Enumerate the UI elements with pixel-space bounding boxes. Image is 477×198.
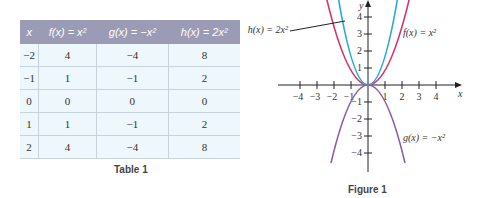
y-axis-arrow-icon [365,0,371,7]
x-axis-label: x [457,88,463,99]
label-g: g(x) = −x² [403,132,446,144]
label-h-leader [290,21,345,31]
svg-text:1: 1 [357,62,362,73]
parabola-graph: −4−3 −2−1 12 34 43 21 −1−2 −3−4 x y h(x)… [0,0,477,198]
svg-text:−2: −2 [327,91,338,102]
svg-text:−3: −3 [351,130,362,141]
svg-text:−3: −3 [310,91,321,102]
label-h: h(x) = 2x² [248,24,289,36]
x-tick-labels: −4−3 −2−1 12 34 [293,91,439,102]
svg-text:−2: −2 [351,113,362,124]
svg-text:3: 3 [357,28,362,39]
svg-text:4: 4 [357,11,362,22]
label-f: f(x) = x² [403,27,437,39]
svg-text:−4: −4 [293,91,304,102]
y-axis-label: y [358,0,364,11]
svg-text:−4: −4 [351,147,362,158]
svg-text:3: 3 [417,91,422,102]
svg-text:4: 4 [434,91,439,102]
svg-text:2: 2 [400,91,405,102]
svg-text:2: 2 [357,45,362,56]
figure-caption: Figure 1 [348,184,387,195]
